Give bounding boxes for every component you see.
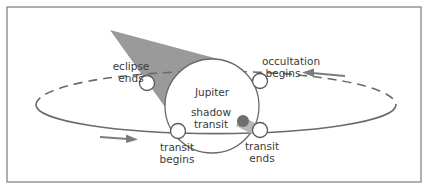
label-shadow-transit-2: transit xyxy=(194,118,228,130)
label-occultation-begins-2: begins xyxy=(266,67,301,79)
label-jupiter: Jupiter xyxy=(194,86,230,98)
shadow-dot xyxy=(237,115,249,127)
moon-transit-ends xyxy=(253,123,268,138)
label-transit-begins-2: begins xyxy=(160,153,195,165)
label-occultation-begins-1: occultation xyxy=(262,55,320,67)
label-transit-begins-1: transit xyxy=(160,141,194,153)
label-eclipse-ends-2: ends xyxy=(118,72,143,84)
moon-transit-begins xyxy=(171,124,186,139)
jupiter-moon-diagram: Jupiter eclipse ends occultation begins … xyxy=(0,0,428,196)
label-shadow-transit-1: shadow xyxy=(191,106,232,118)
label-transit-ends-1: transit xyxy=(245,140,279,152)
label-eclipse-ends-1: eclipse xyxy=(113,60,150,72)
label-transit-ends-2: ends xyxy=(249,152,274,164)
